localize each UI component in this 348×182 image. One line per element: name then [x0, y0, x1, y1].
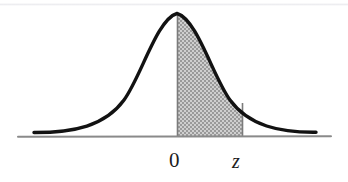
shaded-area-fill: [34, 14, 316, 136]
axis-label-zero: 0: [169, 150, 180, 171]
normal-distribution-figure: 0 z: [0, 0, 348, 182]
horizontal-axis-line: [18, 136, 331, 137]
axis-label-z: z: [232, 151, 240, 171]
normal-density-curve: [34, 14, 316, 133]
shaded-probability-area: [34, 14, 316, 136]
